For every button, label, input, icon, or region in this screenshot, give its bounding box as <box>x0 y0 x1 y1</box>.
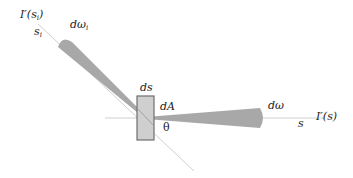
area-element-label: dA <box>160 100 175 113</box>
outgoing-direction-label: s <box>298 117 304 130</box>
radiative-transfer-diagram: I′(si) si dωi ds dA θ dω s I′(s) <box>0 0 353 178</box>
incident-solid-angle-label: dωi <box>70 18 88 32</box>
incident-solid-angle-cone <box>58 39 146 118</box>
outgoing-radiance-label: I′(s) <box>315 110 337 123</box>
surface-length-label: ds <box>140 81 153 94</box>
angle-theta-label: θ <box>163 121 170 134</box>
incident-radiance-label: I′(si) <box>19 8 43 22</box>
outgoing-solid-angle-label: dω <box>268 99 284 112</box>
area-element-rect <box>137 96 154 140</box>
